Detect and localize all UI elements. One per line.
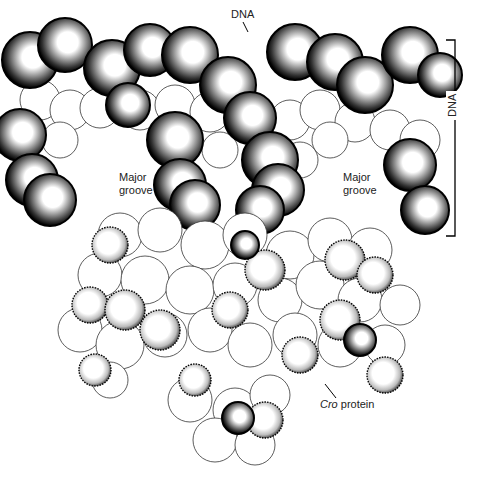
major-groove-label-right: Major groove [343,171,377,197]
dna-bracket-label: DNA [446,91,459,120]
cro-leader-line [325,384,336,398]
figure: DNA Major groove Major groove Cro protei… [0,0,481,491]
cro-protein-label: Cro protein [320,398,374,411]
dna-label-top: DNA [231,8,254,21]
dna-leader-line [243,22,248,32]
major-groove-label-left: Major groove [119,171,153,197]
dna-cro-illustration [0,0,481,491]
